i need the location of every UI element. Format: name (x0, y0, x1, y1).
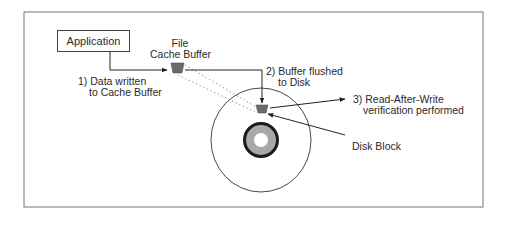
step-3-line-2: verification performed (353, 105, 464, 116)
step-1-line-2: to Cache Buffer (78, 87, 162, 98)
file-cache-buffer-label: File Cache Buffer (150, 38, 210, 60)
application-box: Application (57, 30, 130, 52)
dotted-projection-top (185, 65, 258, 108)
cache-buffer-icon (171, 63, 184, 73)
step-1-label: 1) Data written to Cache Buffer (78, 76, 162, 98)
step-3-label: 3) Read-After-Write verification perform… (353, 94, 464, 116)
file-cache-buffer-line-2: Cache Buffer (150, 49, 210, 60)
disk-icon (211, 88, 311, 192)
disk-block-icon (256, 105, 268, 113)
step-2-label: 2) Buffer flushed to Disk (266, 66, 343, 88)
step-2-line-2: to Disk (266, 77, 343, 88)
disk-block-label: Disk Block (352, 141, 401, 152)
application-label: Application (67, 35, 121, 47)
